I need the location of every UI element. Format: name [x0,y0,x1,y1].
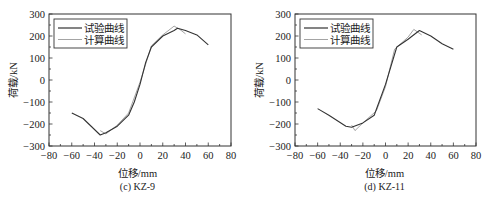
y-tick-label: −300 [269,141,291,152]
legend-label: 试验曲线 [330,22,371,34]
y-axis-label: 荷载/kN [254,62,265,98]
x-tick-label: −20 [109,150,125,161]
y-tick-label: 100 [275,53,291,64]
x-tick-label: 40 [426,150,437,161]
x-tick-label: 80 [471,150,482,161]
x-tick-label: 60 [203,150,214,161]
y-tick-label: 100 [29,53,45,64]
y-tick-label: 200 [29,31,45,42]
x-tick-label: −40 [332,150,348,161]
x-axis-label: 位移/mm [262,165,489,180]
x-tick-label: −60 [309,150,325,161]
chart-panel-kz9: −80−60−40−20020406080−300−200−1000100200… [0,0,245,202]
legend-label: 计算曲线 [84,34,125,46]
x-tick-label: 40 [180,150,191,161]
x-tick-label: 20 [403,150,414,161]
chart-caption: (d) KZ-11 [262,181,489,192]
y-tick-label: −200 [269,119,291,130]
y-tick-label: 300 [29,9,45,20]
x-tick-label: 0 [137,150,142,161]
chart-caption: (c) KZ-9 [15,181,260,192]
y-tick-label: −300 [23,141,45,152]
y-tick-label: 200 [275,31,291,42]
x-tick-label: 20 [158,150,169,161]
x-tick-label: −80 [41,150,57,161]
y-tick-label: −100 [23,97,45,108]
legend-label: 试验曲线 [84,22,125,34]
x-tick-label: 80 [226,150,237,161]
y-axis-label: 荷载/kN [8,62,19,98]
x-axis-label: 位移/mm [15,165,260,180]
x-tick-label: −40 [86,150,102,161]
y-tick-label: −200 [23,119,45,130]
x-tick-label: −60 [64,150,80,161]
legend-label: 计算曲线 [330,34,371,46]
x-tick-label: 60 [448,150,459,161]
y-tick-label: 0 [40,75,45,86]
chart-panel-kz11: −80−60−40−20020406080−300−200−1000100200… [244,0,489,202]
x-tick-label: 0 [383,150,388,161]
y-tick-label: 300 [275,9,291,20]
y-tick-label: −100 [269,97,291,108]
x-tick-label: −20 [355,150,371,161]
y-tick-label: 0 [286,75,291,86]
x-tick-label: −80 [287,150,303,161]
